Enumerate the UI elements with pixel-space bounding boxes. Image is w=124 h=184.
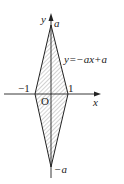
equation-label: y=−ax+a	[63, 53, 108, 65]
y-axis-arrow-icon	[49, 13, 54, 21]
rhombus-region-diagram: y a y=−ax+a −1 1 O x −a	[0, 0, 124, 184]
y-axis-label: y	[40, 13, 46, 25]
hatched-region	[35, 25, 68, 167]
origin-label: O	[41, 95, 49, 107]
x-axis-label: x	[92, 96, 98, 108]
bottom-vertex-label: −a	[54, 163, 67, 175]
tick-label-neg-one: −1	[18, 82, 30, 94]
top-vertex-label: a	[54, 17, 60, 29]
tick-label-one: 1	[68, 82, 74, 94]
